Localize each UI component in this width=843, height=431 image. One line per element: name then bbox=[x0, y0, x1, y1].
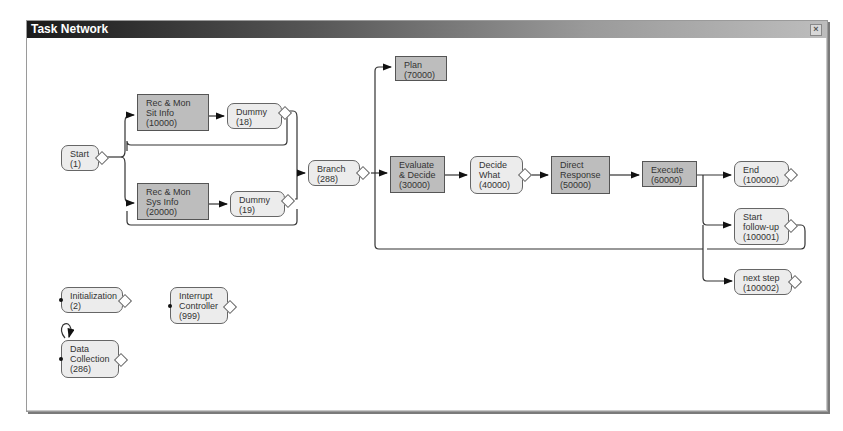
close-icon: × bbox=[813, 24, 818, 34]
node-start-follow-up[interactable]: Start follow-up (100001) bbox=[734, 208, 789, 245]
node-rec-mon-sys-info[interactable]: Rec & Mon Sys Info (20000) bbox=[137, 183, 209, 220]
node-initialization[interactable]: Initialization (2) bbox=[61, 287, 123, 313]
node-evaluate-decide[interactable]: Evaluate & Decide (30000) bbox=[390, 156, 445, 193]
node-dummy-19[interactable]: Dummy (19) bbox=[230, 191, 285, 217]
input-port-icon bbox=[59, 298, 63, 302]
close-button[interactable]: × bbox=[810, 24, 822, 36]
node-decide-what[interactable]: Decide What (40000) bbox=[470, 156, 523, 194]
node-data-collection[interactable]: Data Collection (286) bbox=[61, 340, 119, 378]
window-title: Task Network bbox=[31, 22, 108, 36]
input-port-icon bbox=[59, 357, 63, 361]
network-canvas[interactable]: Start (1) Rec & Mon Sit Info (10000) Dum… bbox=[31, 41, 821, 407]
node-end[interactable]: End (100000) bbox=[734, 161, 789, 187]
task-network-window: Task Network × bbox=[26, 20, 828, 412]
node-rec-mon-sit-info[interactable]: Rec & Mon Sit Info (10000) bbox=[137, 94, 209, 131]
node-dummy-18[interactable]: Dummy (18) bbox=[227, 103, 282, 129]
node-start[interactable]: Start (1) bbox=[61, 145, 99, 171]
node-execute[interactable]: Execute (60000) bbox=[642, 161, 697, 187]
title-bar[interactable]: Task Network × bbox=[27, 21, 827, 38]
node-direct-response[interactable]: Direct Response (50000) bbox=[551, 156, 610, 194]
node-plan[interactable]: Plan (70000) bbox=[395, 56, 447, 81]
node-interrupt-controller[interactable]: Interrupt Controller (999) bbox=[170, 287, 228, 324]
node-next-step[interactable]: next step (100002) bbox=[734, 269, 792, 295]
input-port-icon bbox=[168, 304, 172, 308]
node-branch[interactable]: Branch (288) bbox=[308, 160, 360, 186]
